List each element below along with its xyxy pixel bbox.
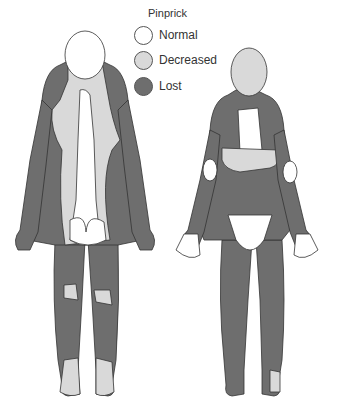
posterior-body-figure xyxy=(15,31,154,396)
body-diagrams xyxy=(0,0,339,404)
anterior-body-figure xyxy=(176,48,318,396)
